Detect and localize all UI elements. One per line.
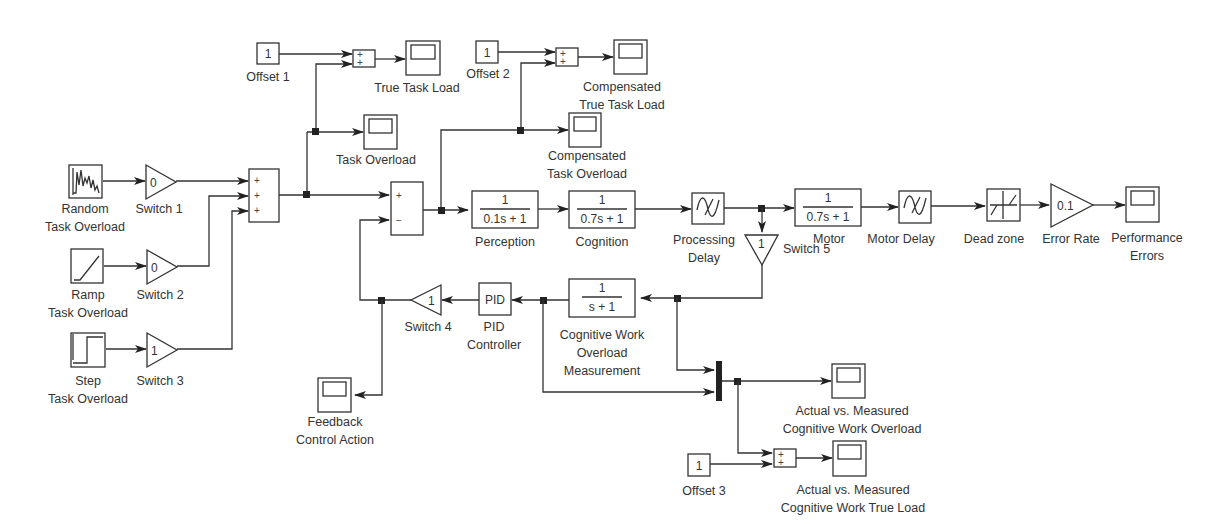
scope-screen-icon xyxy=(837,368,860,382)
switch-3-gain[interactable]: 1 Switch 3 xyxy=(136,333,183,388)
step-label-1: Step xyxy=(75,374,101,388)
task-overload-label: Task Overload xyxy=(336,153,416,167)
comp-task-overload-label-2: Task Overload xyxy=(547,167,627,181)
error-rate-label: Error Rate xyxy=(1042,232,1100,246)
feedback-label-2: Control Action xyxy=(296,433,374,447)
offset-1-label: Offset 1 xyxy=(246,70,290,84)
dead-zone-block[interactable]: Dead zone xyxy=(964,189,1025,246)
switch-2-gain[interactable]: 0 Switch 2 xyxy=(136,250,183,302)
compensated-task-overload-scope[interactable]: Compensated Task Overload xyxy=(547,113,627,181)
switch-1-value: 0 xyxy=(150,176,157,190)
tf-denominator: 0.7s + 1 xyxy=(806,210,849,224)
tf-denominator: 0.1s + 1 xyxy=(483,212,526,226)
pid-controller[interactable]: PID PID Controller xyxy=(467,283,521,352)
scope-screen-icon xyxy=(619,44,642,58)
ramp-label-2: Task Overload xyxy=(48,306,128,320)
sum-sign: + xyxy=(254,205,260,216)
sum-sign: + xyxy=(254,175,260,186)
cognition-label: Cognition xyxy=(576,235,629,249)
processing-delay-label-1: Processing xyxy=(673,233,735,247)
motor-delay-block[interactable]: Motor Delay xyxy=(867,191,935,246)
processing-delay-block[interactable]: Processing Delay xyxy=(673,193,735,265)
ramp-task-overload-source[interactable]: Ramp Task Overload xyxy=(48,249,128,320)
comp-task-overload-label-1: Compensated xyxy=(548,149,626,163)
sum-error-block[interactable]: + − xyxy=(391,182,423,235)
scope-screen-icon xyxy=(369,119,392,133)
switch-1-label: Switch 1 xyxy=(135,202,182,216)
switch-3-label: Switch 3 xyxy=(136,374,183,388)
scope-screen-icon xyxy=(411,45,435,59)
tf-numerator: 1 xyxy=(599,281,606,295)
random-label-2: Task Overload xyxy=(45,220,125,234)
block-diagram: Random Task Overload Ramp Task Overload … xyxy=(0,0,1217,527)
sum-sign: + xyxy=(778,457,784,468)
tf-numerator: 1 xyxy=(599,193,606,207)
pid-label-1: PID xyxy=(484,320,505,334)
perception-transfer-fn[interactable]: 1 0.1s + 1 Perception xyxy=(472,191,538,249)
actual-vs-measured-overload-scope[interactable]: Actual vs. Measured Cognitive Work Overl… xyxy=(783,364,922,436)
feedback-control-action-scope[interactable]: Feedback Control Action xyxy=(296,378,374,447)
task-overload-scope[interactable]: Task Overload xyxy=(336,115,416,167)
measurement-label-2: Overload xyxy=(577,346,628,360)
switch-4-value: 1 xyxy=(428,294,435,308)
pid-label-2: Controller xyxy=(467,338,521,352)
sum-sign: + xyxy=(357,57,363,68)
measurement-transfer-fn[interactable]: 1 s + 1 Cognitive Work Overload Measurem… xyxy=(560,279,645,378)
scope-screen-icon xyxy=(323,382,346,396)
random-label-1: Random xyxy=(61,202,108,216)
switch-2-value: 0 xyxy=(151,261,158,275)
scope-screen-icon xyxy=(838,445,861,459)
switch-4-gain[interactable]: 1 Switch 4 xyxy=(404,285,451,334)
offset-3-label: Offset 3 xyxy=(682,484,726,498)
sum-offset-1-block[interactable]: + + xyxy=(353,49,375,68)
tf-numerator: 1 xyxy=(502,193,509,207)
actual-vs-measured-true-load-scope[interactable]: Actual vs. Measured Cognitive Work True … xyxy=(781,441,925,515)
sum-sign: − xyxy=(396,215,402,226)
measurement-label-1: Cognitive Work xyxy=(560,328,645,342)
offset-1-constant[interactable]: 1 Offset 1 xyxy=(246,43,290,84)
offset-2-label: Offset 2 xyxy=(466,67,510,81)
offset-1-value: 1 xyxy=(265,47,272,61)
measurement-label-3: Measurement xyxy=(564,364,641,378)
error-rate-gain[interactable]: 0.1 Error Rate xyxy=(1042,184,1100,246)
dead-zone-label: Dead zone xyxy=(964,232,1025,246)
tf-numerator: 1 xyxy=(825,191,832,205)
actual-true-load-label-1: Actual vs. Measured xyxy=(796,483,909,497)
actual-true-load-label-2: Cognitive Work True Load xyxy=(781,501,925,515)
step-label-2: Task Overload xyxy=(48,392,128,406)
offset-3-constant[interactable]: 1 Offset 3 xyxy=(682,454,726,498)
true-task-load-label: True Task Load xyxy=(374,81,460,95)
sum-sign: + xyxy=(396,190,402,201)
offset-2-constant[interactable]: 1 Offset 2 xyxy=(466,41,510,81)
mux-block[interactable] xyxy=(716,361,722,401)
offset-2-value: 1 xyxy=(484,46,491,60)
step-task-overload-source[interactable]: Step Task Overload xyxy=(48,333,128,406)
switch-5-value: 1 xyxy=(758,237,765,251)
tf-denominator: 0.7s + 1 xyxy=(580,212,623,226)
scope-screen-icon xyxy=(574,117,596,131)
motor-transfer-fn[interactable]: 1 0.7s + 1 Motor xyxy=(795,189,861,246)
sum-sign: + xyxy=(254,190,260,201)
random-task-overload-source[interactable]: Random Task Overload xyxy=(45,165,125,234)
true-task-load-scope[interactable]: True Task Load xyxy=(374,41,460,95)
feedback-label-1: Feedback xyxy=(308,415,364,429)
scope-screen-icon xyxy=(1131,191,1154,205)
pid-text: PID xyxy=(485,293,505,307)
switch-2-label: Switch 2 xyxy=(136,288,183,302)
sum-inputs-block[interactable]: + + + xyxy=(249,169,279,222)
actual-overload-label-2: Cognitive Work Overload xyxy=(783,422,922,436)
sum-offset-3-block[interactable]: + + xyxy=(774,449,796,468)
motor-label: Motor xyxy=(813,232,845,246)
tf-denominator: s + 1 xyxy=(589,300,616,314)
performance-errors-scope[interactable]: Performance Errors xyxy=(1111,187,1183,263)
cognition-transfer-fn[interactable]: 1 0.7s + 1 Cognition xyxy=(569,191,635,249)
actual-overload-label-1: Actual vs. Measured xyxy=(795,404,908,418)
performance-errors-label-1: Performance xyxy=(1111,231,1183,245)
sum-offset-2-block[interactable]: + + xyxy=(556,48,578,67)
performance-errors-label-2: Errors xyxy=(1130,249,1164,263)
motor-delay-label: Motor Delay xyxy=(867,232,935,246)
switch-1-gain[interactable]: 0 Switch 1 xyxy=(135,165,182,216)
compensated-true-task-load-scope[interactable]: Compensated True Task Load xyxy=(579,40,665,112)
offset-3-value: 1 xyxy=(696,459,703,473)
switch-4-label: Switch 4 xyxy=(404,320,451,334)
